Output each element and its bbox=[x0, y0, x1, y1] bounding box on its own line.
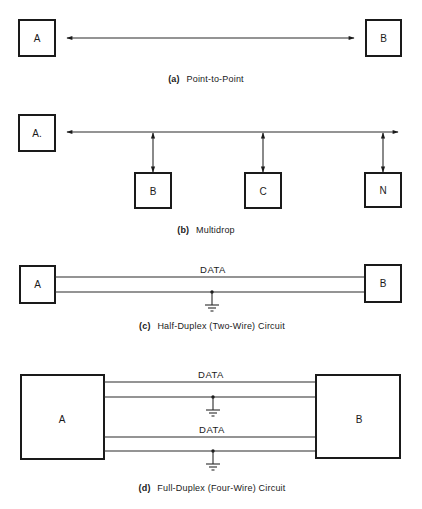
caption-text: Half-Duplex (Two-Wire) Circuit bbox=[157, 321, 285, 331]
node-b-label: B bbox=[380, 33, 387, 44]
panel-full-duplex: A DATA DATA B (d) Full-Duplex (Four-Wire… bbox=[21, 369, 400, 493]
caption-tag: (c) bbox=[139, 321, 151, 331]
node-a-label: A bbox=[34, 33, 41, 44]
panel-point-to-point: A B (a) Point-to-Point bbox=[19, 20, 401, 84]
caption-tag: (a) bbox=[168, 74, 180, 84]
ground-icon bbox=[206, 449, 220, 470]
ground-icon bbox=[206, 395, 220, 416]
node-n-label: N bbox=[379, 185, 386, 196]
caption-multidrop: (b) Multidrop bbox=[177, 225, 235, 235]
data-wire-label: DATA bbox=[198, 369, 224, 380]
caption-point-to-point: (a) Point-to-Point bbox=[168, 74, 244, 84]
communication-circuits-diagram: A B (a) Point-to-Point A. B C N (b) Mult… bbox=[0, 0, 422, 509]
caption-text: Point-to-Point bbox=[186, 74, 244, 84]
caption-text: Full-Duplex (Four-Wire) Circuit bbox=[157, 483, 286, 493]
node-b-label: B bbox=[380, 278, 387, 289]
node-c-label: C bbox=[259, 186, 266, 197]
data-wire-label: DATA bbox=[200, 264, 226, 275]
node-a-label: A bbox=[34, 279, 41, 290]
node-b-label: B bbox=[150, 186, 157, 197]
ground-icon bbox=[205, 290, 219, 311]
panel-half-duplex: A DATA B (c) Half-Duplex (Two-Wire) Circ… bbox=[20, 264, 401, 331]
panel-multidrop: A. B C N (b) Multidrop bbox=[19, 115, 401, 235]
node-a-label: A bbox=[59, 414, 66, 425]
caption-tag: (d) bbox=[138, 483, 150, 493]
caption-tag: (b) bbox=[177, 225, 189, 235]
node-a-label: A. bbox=[32, 128, 41, 139]
caption-full-duplex: (d) Full-Duplex (Four-Wire) Circuit bbox=[138, 483, 285, 493]
caption-half-duplex: (c) Half-Duplex (Two-Wire) Circuit bbox=[139, 321, 285, 331]
data-wire-label: DATA bbox=[199, 424, 225, 435]
caption-text: Multidrop bbox=[196, 225, 235, 235]
node-b-label: B bbox=[356, 414, 363, 425]
